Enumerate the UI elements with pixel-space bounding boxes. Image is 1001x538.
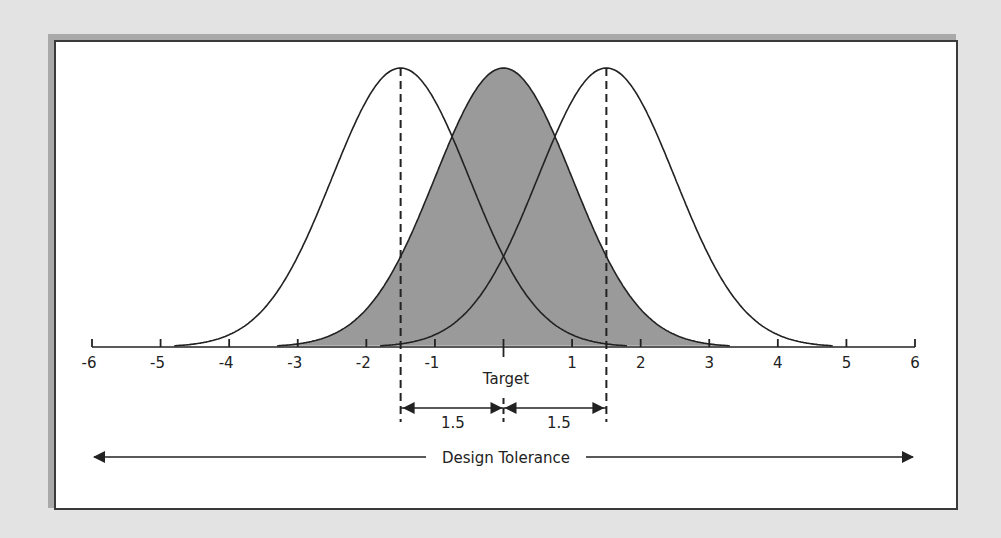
tick-label: -2 (356, 354, 371, 372)
arrowhead-right-icon (592, 402, 604, 414)
tick-label: -5 (150, 354, 165, 372)
arrowhead-left-icon (93, 451, 105, 463)
right-shift-label: 1.5 (547, 414, 571, 432)
arrowhead-right-icon (902, 451, 914, 463)
arrowhead-left-icon (403, 402, 415, 414)
tick-label: -4 (219, 354, 234, 372)
left-shift-label: 1.5 (441, 414, 465, 432)
centered-fill (277, 68, 730, 346)
tick-label: 6 (910, 354, 920, 372)
tick-label: 4 (773, 354, 783, 372)
target-label: Target (482, 370, 530, 388)
tolerance-label: Design Tolerance (442, 449, 570, 467)
distribution-diagram: -6-5-4-3-2-1123456 Target 1.5 1.5 Design… (0, 0, 1001, 538)
tick-label: -6 (82, 354, 97, 372)
curves-group (174, 68, 832, 346)
tick-label: 3 (704, 354, 714, 372)
tick-label: 5 (842, 354, 852, 372)
arrowhead-left-icon (505, 402, 517, 414)
tick-label: -3 (287, 354, 302, 372)
tick-label: -1 (424, 354, 439, 372)
arrowhead-right-icon (491, 402, 503, 414)
tick-label: 2 (636, 354, 646, 372)
tick-label: 1 (567, 354, 577, 372)
